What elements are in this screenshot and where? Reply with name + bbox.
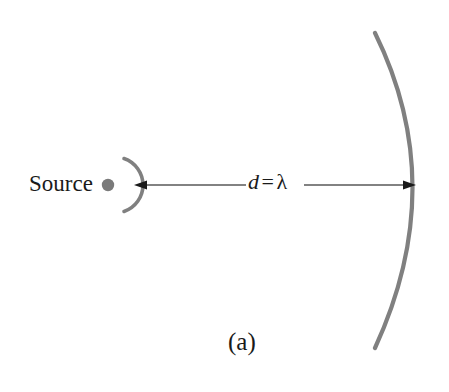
- distance-label: d=λ: [248, 171, 288, 193]
- source-point-dot: [102, 179, 114, 191]
- source-label: Source: [29, 172, 93, 195]
- wavefront-diagram-figure: Source d=λ (a): [0, 0, 449, 392]
- distance-equals-sign: =: [260, 169, 277, 194]
- dimension-arrowhead-left-icon: [134, 181, 147, 190]
- distance-lambda-symbol: λ: [276, 169, 287, 194]
- diagram-canvas: [0, 0, 449, 392]
- panel-caption: (a): [228, 329, 256, 354]
- far-wavefront-arc: [375, 33, 413, 348]
- distance-variable-d: d: [248, 169, 260, 194]
